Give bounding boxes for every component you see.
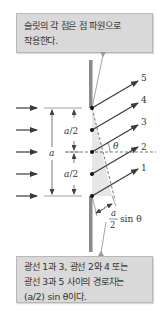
path-diff-suffix: sin θ bbox=[120, 214, 142, 224]
slit-wall-bottom bbox=[89, 196, 93, 252]
slit-width-label: a bbox=[49, 148, 54, 158]
bottom-callout-line-2: 광선 3과 5 사이의 경로차는 bbox=[24, 274, 146, 289]
incident-arrows bbox=[16, 108, 37, 196]
half-width-label-lower: a/2 bbox=[64, 169, 78, 179]
bottom-callout-line-3: (a/2) sin θ이다. bbox=[24, 289, 146, 304]
ray-label-2: 2 bbox=[141, 142, 147, 152]
ray-label-1: 1 bbox=[141, 163, 147, 173]
bottom-callout: 광선 1과 3, 광선 2와 4 또는 광선 3과 5 사이의 경로차는 (a/… bbox=[16, 256, 153, 303]
half-width-label-upper: a/2 bbox=[64, 126, 78, 136]
angle-label: θ bbox=[113, 141, 119, 151]
path-diff-numerator: a bbox=[111, 208, 116, 218]
slit-wall-top bbox=[89, 60, 93, 108]
ray-label-5: 5 bbox=[141, 73, 147, 83]
bottom-callout-line-1: 광선 1과 3, 광선 2와 4 또는 bbox=[24, 259, 146, 274]
ray-label-4: 4 bbox=[141, 95, 147, 105]
path-diff-denominator: 2 bbox=[110, 220, 115, 230]
angle-arc bbox=[108, 143, 110, 152]
ray-label-3: 3 bbox=[141, 117, 147, 127]
